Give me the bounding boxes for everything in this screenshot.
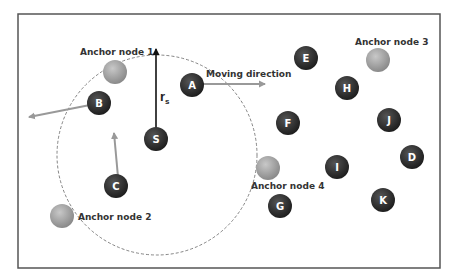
sensor-node-label: D	[408, 152, 416, 163]
sensor-node-g: G	[268, 194, 292, 218]
anchor-node-circle	[256, 156, 280, 180]
anchor-node-4: Anchor node 4	[251, 156, 324, 191]
sensor-node-label: A	[188, 80, 196, 91]
sensor-node-a: A	[180, 73, 204, 97]
anchor-node-3: Anchor node 3	[355, 37, 428, 72]
sensor-node-e: E	[294, 46, 318, 70]
anchor-node-label: Anchor node 1	[80, 47, 153, 57]
sensor-node-k: K	[371, 188, 395, 212]
sensor-node-b: B	[87, 91, 111, 115]
sensor-node-i: I	[325, 155, 349, 179]
sensor-node-label: G	[276, 201, 284, 212]
anchor-node-label: Anchor node 3	[355, 37, 428, 47]
anchor-node-2: Anchor node 2	[50, 204, 151, 228]
sensor-node-label: J	[386, 115, 391, 126]
sensor-node-label: C	[112, 181, 119, 192]
anchor-node-circle	[366, 48, 390, 72]
sensor-node-j: J	[377, 108, 401, 132]
radius-label-sub: s	[165, 97, 170, 106]
sensor-node-label: E	[303, 53, 310, 64]
anchor-node-1: Anchor node 1	[80, 47, 153, 84]
sensor-node-f: F	[276, 111, 300, 135]
moving-direction-label: Moving direction	[206, 69, 291, 79]
node-b-direction-arrow	[29, 105, 90, 117]
sensor-node-label: S	[152, 134, 159, 145]
anchor-node-circle	[103, 60, 127, 84]
node-c-direction-arrow	[114, 133, 118, 177]
anchor-node-circle	[50, 204, 74, 228]
sensor-node-label: H	[343, 83, 351, 94]
sensor-node-d: D	[400, 145, 424, 169]
sensor-node-label: I	[335, 162, 339, 173]
anchor-node-label: Anchor node 2	[78, 212, 151, 222]
sensor-node-label: K	[379, 195, 388, 206]
sensor-node-s: S	[144, 127, 168, 151]
wsn-localization-diagram: rs Moving direction Anchor node 1Anchor …	[0, 0, 458, 280]
sensor-node-label: B	[95, 98, 103, 109]
sensing-radius-label: rs	[160, 89, 170, 106]
sensor-node-c: C	[104, 174, 128, 198]
sensor-node-h: H	[335, 76, 359, 100]
sensor-node-label: F	[285, 118, 292, 129]
anchor-node-label: Anchor node 4	[251, 181, 324, 191]
